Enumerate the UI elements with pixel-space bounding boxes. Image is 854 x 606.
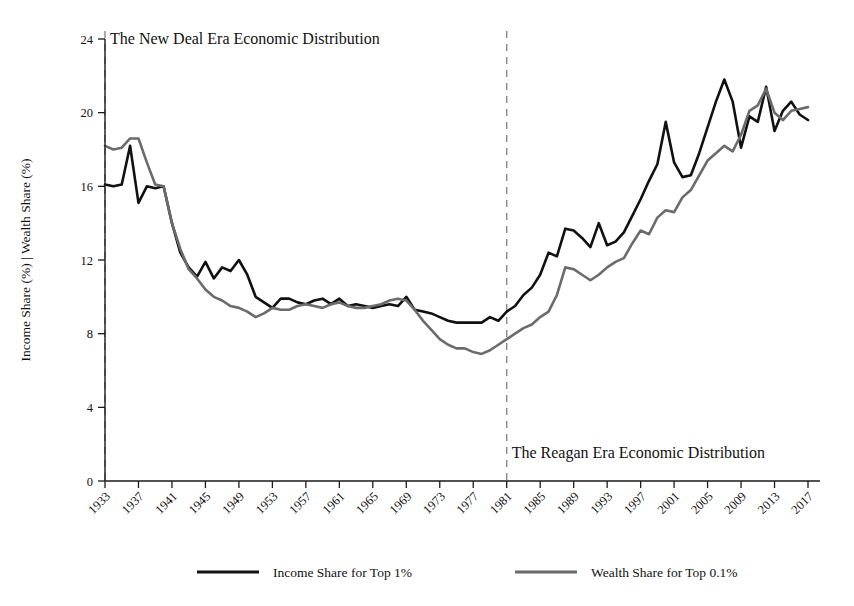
- y-tick-label: 0: [87, 475, 93, 489]
- annotation-text-1: The New Deal Era Economic Distribution: [110, 30, 380, 47]
- y-axis-title: Income Share (%) | Wealth Share (%): [18, 158, 33, 361]
- y-axis-title-text: Income Share (%) | Wealth Share (%): [18, 158, 33, 361]
- chart-canvas: 1933193719411945194919531957196119651969…: [0, 0, 854, 606]
- legend-label-2[interactable]: Wealth Share for Top 0.1%: [591, 565, 738, 580]
- y-tick-label: 12: [81, 254, 94, 268]
- y-tick-label: 20: [81, 106, 94, 120]
- annotation-text-2: The Reagan Era Economic Distribution: [512, 444, 765, 462]
- chart-figure: 1933193719411945194919531957196119651969…: [0, 0, 854, 606]
- legend-label-1[interactable]: Income Share for Top 1%: [273, 565, 412, 580]
- y-tick-label: 16: [81, 180, 94, 194]
- y-tick-label: 8: [87, 327, 93, 341]
- y-tick-label: 24: [81, 33, 94, 47]
- y-tick-label: 4: [87, 401, 94, 415]
